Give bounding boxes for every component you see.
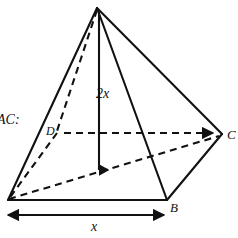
pyramid-figure: AC: D C B 2x x [0, 0, 238, 238]
pyramid-drawing [0, 0, 238, 238]
height-dimension-label: 2x [96, 87, 109, 101]
edge-apex-to-B [97, 8, 167, 200]
edge-diagonal-A-to-C [9, 136, 219, 199]
vertex-label-d: D [46, 125, 55, 137]
edge-apex-to-A [8, 8, 97, 200]
vertex-label-c: C [227, 128, 236, 141]
edge-apex-to-D [57, 10, 97, 131]
edge-apex-to-C [97, 8, 222, 134]
base-width-dimension-label: x [91, 220, 97, 234]
vertex-label-b: B [170, 201, 178, 214]
prompt-label-ac: AC: [0, 113, 20, 127]
edge-base-D-to-A [8, 133, 57, 200]
